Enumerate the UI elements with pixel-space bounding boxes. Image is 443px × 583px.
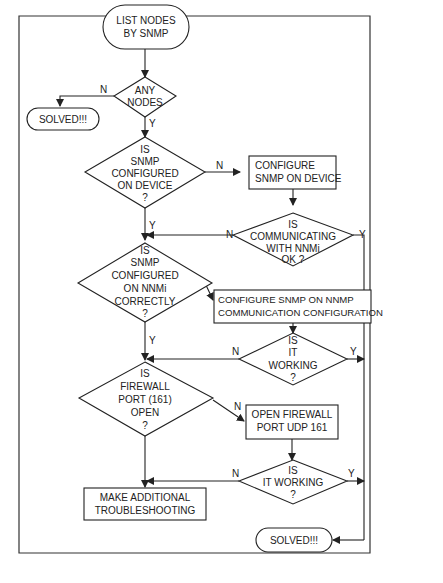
- svg-text:IS: IS: [288, 335, 298, 346]
- label-yes: Y: [348, 468, 355, 479]
- svg-text:IS: IS: [288, 465, 298, 476]
- svg-text:TROUBLESHOOTING: TROUBLESHOOTING: [95, 505, 196, 516]
- label-no: N: [232, 346, 239, 357]
- svg-text:CORRECTLY: CORRECTLY: [115, 296, 176, 307]
- svg-text:?: ?: [142, 192, 148, 203]
- svg-text:BY SNMP: BY SNMP: [124, 28, 169, 39]
- process-open-firewall-port: OPEN FIREWALL PORT UDP 161: [246, 405, 338, 439]
- svg-text:SNMP: SNMP: [131, 257, 160, 268]
- svg-text:ON NNMi: ON NNMi: [124, 283, 167, 294]
- svg-text:IS: IS: [140, 144, 150, 155]
- svg-text:OPEN: OPEN: [131, 407, 159, 418]
- svg-text:PORT UDP 161: PORT UDP 161: [257, 422, 328, 433]
- label-no: N: [216, 160, 223, 171]
- svg-text:OK ?: OK ?: [282, 254, 305, 265]
- svg-text:CONFIGURED: CONFIGURED: [111, 270, 178, 281]
- svg-text:FIREWALL: FIREWALL: [120, 381, 170, 392]
- svg-text:?: ?: [290, 372, 296, 383]
- node-solved-top: SOLVED!!!: [27, 108, 99, 130]
- svg-text:PORT (161): PORT (161): [118, 394, 172, 405]
- label-yes: Y: [149, 118, 156, 129]
- decision-snmp-configured-on-nnmi: IS SNMP CONFIGURED ON NNMi CORRECTLY ?: [78, 243, 212, 322]
- process-additional-troubleshooting: MAKE ADDITIONAL TROUBLESHOOTING: [84, 488, 206, 520]
- process-configure-snmp-on-device: CONFIGURE SNMP ON DEVICE: [249, 156, 342, 189]
- label-no: N: [232, 468, 239, 479]
- edge-communicating-yes: [353, 235, 364, 540]
- svg-text:SOLVED!!!: SOLVED!!!: [39, 114, 87, 125]
- label-yes: Y: [149, 335, 156, 346]
- svg-text:OPEN FIREWALL: OPEN FIREWALL: [252, 409, 333, 420]
- svg-text:SNMP: SNMP: [131, 156, 160, 167]
- svg-text:?: ?: [142, 420, 148, 431]
- decision-firewall-port-open: IS FIREWALL PORT (161) OPEN ?: [79, 362, 213, 436]
- svg-text:CONFIGURED: CONFIGURED: [111, 168, 178, 179]
- svg-text:NODES: NODES: [127, 97, 163, 108]
- node-solved-bottom: SOLVED!!!: [256, 528, 332, 552]
- label-yes: Y: [350, 346, 357, 357]
- svg-text:SNMP ON DEVICE: SNMP ON DEVICE: [255, 173, 342, 184]
- label-no: N: [226, 229, 233, 240]
- svg-text:COMMUNICATING: COMMUNICATING: [250, 231, 336, 242]
- process-configure-snmp-on-nnmp: CONFIGURE SNMP ON NNMP COMMUNICATION CON…: [214, 290, 383, 323]
- label-yes: Y: [359, 229, 366, 240]
- decision-is-it-working-2: IS IT WORKING ?: [239, 460, 347, 504]
- label-no: N: [100, 84, 107, 95]
- label-yes: Y: [149, 220, 156, 231]
- node-list-nodes-by-snmp: LIST NODES BY SNMP: [103, 5, 189, 49]
- svg-text:ON DEVICE: ON DEVICE: [117, 180, 172, 191]
- svg-text:IS: IS: [140, 245, 150, 256]
- svg-text:WITH NNMi: WITH NNMi: [266, 243, 319, 254]
- svg-text:SOLVED!!!: SOLVED!!!: [270, 535, 318, 546]
- svg-text:IT: IT: [289, 347, 298, 358]
- svg-text:IS: IS: [140, 368, 150, 379]
- svg-text:WORKING: WORKING: [269, 360, 318, 371]
- svg-text:MAKE ADDITIONAL: MAKE ADDITIONAL: [100, 492, 191, 503]
- label-no: N: [234, 401, 241, 412]
- svg-text:?: ?: [290, 489, 296, 500]
- svg-text:LIST NODES: LIST NODES: [116, 15, 176, 26]
- flowchart: N Y N Y N Y Y N Y N N Y LIST NODES BY SN…: [0, 0, 443, 583]
- svg-text:IS: IS: [288, 219, 298, 230]
- svg-text:CONFIGURE SNMP ON NNMP: CONFIGURE SNMP ON NNMP: [218, 294, 354, 305]
- decision-communicating-with-nnmi: IS COMMUNICATING WITH NNMi OK ?: [233, 213, 353, 266]
- svg-text:ANY: ANY: [135, 85, 156, 96]
- decision-is-it-working-1: IS IT WORKING ?: [239, 333, 347, 385]
- svg-text:CONFIGURE: CONFIGURE: [255, 160, 315, 171]
- decision-any-nodes: ANY NODES: [114, 77, 176, 117]
- edge-any-nodes-no: [60, 96, 114, 106]
- svg-text:COMMUNICATION CONFIGURATION: COMMUNICATION CONFIGURATION: [218, 307, 383, 318]
- decision-snmp-configured-on-device: IS SNMP CONFIGURED ON DEVICE ?: [85, 137, 205, 208]
- svg-text:IT WORKING: IT WORKING: [263, 477, 324, 488]
- svg-text:?: ?: [142, 308, 148, 319]
